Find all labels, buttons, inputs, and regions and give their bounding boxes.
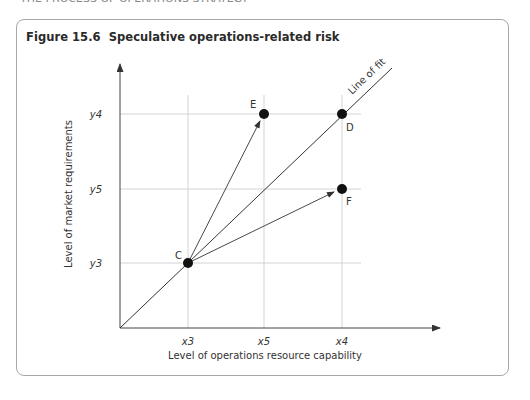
point-d	[337, 109, 347, 119]
point-f	[337, 184, 347, 194]
point-label-f: F	[346, 196, 352, 207]
y-tick-y5: y5	[89, 184, 102, 195]
x-tick-x5: x5	[257, 336, 270, 347]
point-label-c: C	[175, 250, 182, 261]
y-tick-y3: y3	[89, 258, 102, 269]
x-axis-label: Level of operations resource capability	[168, 350, 362, 361]
point-e	[259, 109, 269, 119]
arrow-c-to-f	[188, 192, 334, 263]
point-label-d: D	[346, 122, 354, 133]
point-label-e: E	[250, 99, 256, 110]
point-c	[183, 258, 193, 268]
x-tick-x3: x3	[181, 336, 194, 347]
line-of-fit-label: Line of fit	[346, 56, 388, 97]
diagram-canvas: Line of fit C E D F y4 y5 y3 x3 x5 x4 Le…	[0, 0, 530, 400]
x-tick-x4: x4	[335, 336, 348, 347]
arrow-c-to-e	[188, 121, 260, 263]
y-axis-label: Level of market requirements	[63, 120, 74, 268]
y-tick-y4: y4	[89, 109, 102, 120]
